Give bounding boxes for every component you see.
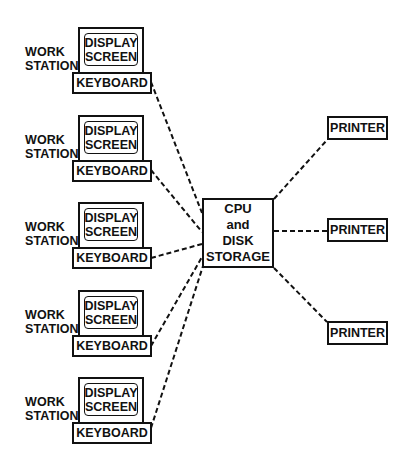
- connector-ws1-cpu: [151, 82, 202, 213]
- display-screen: DISPLAY SCREEN: [84, 121, 138, 154]
- connector-ws2-cpu: [151, 170, 202, 232]
- display-screen: DISPLAY SCREEN: [84, 33, 138, 66]
- display-screen: DISPLAY SCREEN: [84, 296, 138, 329]
- network-diagram: WORK STATION DISPLAY SCREEN KEYBOARD WOR…: [0, 0, 410, 464]
- connector-ws5-cpu: [151, 266, 203, 428]
- workstation-label: WORK STATION: [25, 45, 79, 73]
- display-screen: DISPLAY SCREEN: [84, 208, 138, 241]
- display-screen: DISPLAY SCREEN: [84, 383, 138, 416]
- keyboard-box: KEYBOARD: [72, 247, 152, 269]
- monitor-box: DISPLAY SCREEN: [78, 290, 144, 337]
- connector-cpu-printer1: [274, 140, 327, 199]
- workstation-label: WORK STATION: [25, 220, 79, 248]
- connector-ws4-cpu: [151, 257, 202, 346]
- workstation-label: WORK STATION: [25, 395, 79, 423]
- keyboard-box: KEYBOARD: [72, 422, 152, 444]
- monitor-box: DISPLAY SCREEN: [78, 115, 144, 162]
- monitor-box: DISPLAY SCREEN: [78, 202, 144, 249]
- keyboard-box: KEYBOARD: [72, 160, 152, 182]
- keyboard-box: KEYBOARD: [72, 72, 152, 94]
- connector-ws3-cpu: [151, 244, 202, 258]
- workstation-label: WORK STATION: [25, 308, 79, 336]
- printer-2: PRINTER: [327, 218, 388, 242]
- workstation-label: WORK STATION: [25, 133, 79, 161]
- monitor-box: DISPLAY SCREEN: [78, 27, 144, 74]
- monitor-box: DISPLAY SCREEN: [78, 377, 144, 424]
- printer-1: PRINTER: [327, 116, 388, 140]
- keyboard-box: KEYBOARD: [72, 335, 152, 357]
- cpu-disk-storage-box: CPU and DISK STORAGE: [202, 198, 274, 268]
- connector-cpu-printer3: [274, 268, 327, 322]
- printer-3: PRINTER: [327, 321, 388, 345]
